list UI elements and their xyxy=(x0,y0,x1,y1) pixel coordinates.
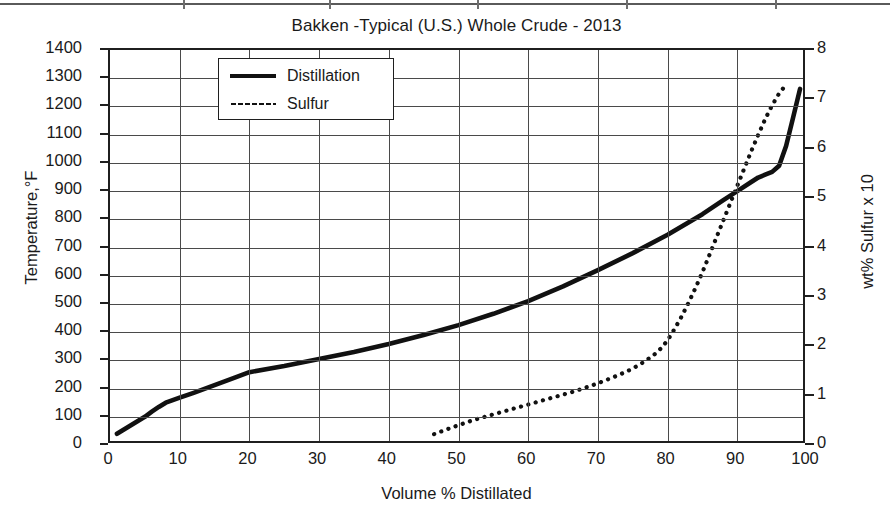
gridline-horizontal xyxy=(110,332,803,333)
legend-solid-line-icon xyxy=(227,74,279,78)
right-tick-mark xyxy=(805,147,814,149)
x-tick-label: 100 xyxy=(775,450,835,467)
right-tick-mark xyxy=(805,196,814,198)
gridline-horizontal xyxy=(110,78,803,79)
gridline-vertical xyxy=(668,50,669,441)
right-y-axis-label: wt% Sulfur x 10 xyxy=(858,107,877,357)
gridline-horizontal xyxy=(110,135,803,136)
left-tick-mark xyxy=(100,161,108,163)
right-tick-mark xyxy=(805,97,814,99)
x-tick-label: 10 xyxy=(148,450,208,467)
gridline-horizontal xyxy=(110,389,803,390)
left-tick-mark xyxy=(100,133,108,135)
left-tick-mark xyxy=(100,76,108,78)
gridline-horizontal xyxy=(110,248,803,249)
left-tick-mark xyxy=(100,104,108,106)
right-tick-mark xyxy=(805,246,814,248)
gridline-vertical xyxy=(180,50,181,441)
gridline-horizontal xyxy=(110,417,803,418)
left-tick-mark xyxy=(100,443,108,445)
scan-artifact-tick xyxy=(183,0,185,9)
x-tick-label: 70 xyxy=(566,450,626,467)
left-tick-label: 300 xyxy=(14,349,82,366)
x-tick-label: 60 xyxy=(496,450,556,467)
legend-label-distillation: Distillation xyxy=(287,67,360,85)
series-line-sulfur xyxy=(434,85,786,435)
x-tick-label: 30 xyxy=(287,450,347,467)
gridline-vertical xyxy=(459,50,460,441)
left-tick-mark xyxy=(100,217,108,219)
left-tick-label: 100 xyxy=(14,406,82,423)
chart-figure: Bakken -Typical (U.S.) Whole Crude - 201… xyxy=(0,0,890,524)
gridline-horizontal xyxy=(110,304,803,305)
x-tick-label: 90 xyxy=(705,450,765,467)
plot-area xyxy=(108,48,805,443)
left-tick-label: 1200 xyxy=(14,95,82,112)
chart-title: Bakken -Typical (U.S.) Whole Crude - 201… xyxy=(108,16,805,36)
x-tick-label: 40 xyxy=(357,450,417,467)
scan-artifact-tick xyxy=(477,0,479,9)
gridline-horizontal xyxy=(110,106,803,107)
scan-artifact-tick xyxy=(775,0,777,9)
legend-item-sulfur: Sulfur xyxy=(219,90,393,118)
legend-label-sulfur: Sulfur xyxy=(287,95,329,113)
left-tick-mark xyxy=(100,415,108,417)
right-tick-mark xyxy=(805,344,814,346)
right-tick-label: 5 xyxy=(817,187,847,204)
right-tick-mark xyxy=(805,394,814,396)
right-tick-label: 0 xyxy=(817,434,847,451)
legend-item-distillation: Distillation xyxy=(219,62,393,90)
chart-legend: Distillation Sulfur xyxy=(218,58,394,120)
left-tick-mark xyxy=(100,302,108,304)
right-tick-label: 2 xyxy=(817,335,847,352)
right-tick-label: 7 xyxy=(817,88,847,105)
right-tick-mark xyxy=(805,48,814,50)
left-y-axis-label: Temperature,°F xyxy=(22,113,41,343)
legend-dotted-line-icon xyxy=(227,102,279,106)
left-tick-mark xyxy=(100,358,108,360)
left-tick-label: 1400 xyxy=(14,39,82,56)
left-tick-mark xyxy=(100,189,108,191)
left-tick-label: 200 xyxy=(14,378,82,395)
x-axis-label: Volume % Distillated xyxy=(108,484,805,503)
left-tick-label: 0 xyxy=(14,434,82,451)
left-tick-label: 1300 xyxy=(14,67,82,84)
gridline-horizontal xyxy=(110,360,803,361)
left-tick-mark xyxy=(100,387,108,389)
gridline-horizontal xyxy=(110,191,803,192)
left-tick-mark xyxy=(100,330,108,332)
gridline-horizontal xyxy=(110,219,803,220)
scan-artifact-tick xyxy=(329,0,331,9)
right-tick-label: 3 xyxy=(817,286,847,303)
x-tick-label: 20 xyxy=(217,450,277,467)
right-tick-mark xyxy=(805,443,814,445)
left-tick-mark xyxy=(100,48,108,50)
x-tick-label: 50 xyxy=(427,450,487,467)
x-tick-label: 80 xyxy=(636,450,696,467)
right-tick-label: 6 xyxy=(817,138,847,155)
left-tick-mark xyxy=(100,274,108,276)
gridline-vertical xyxy=(528,50,529,441)
scan-artifact-rule xyxy=(0,3,890,5)
x-tick-label: 0 xyxy=(78,450,138,467)
gridline-vertical xyxy=(737,50,738,441)
gridline-vertical xyxy=(598,50,599,441)
left-tick-mark xyxy=(100,246,108,248)
gridline-horizontal xyxy=(110,276,803,277)
right-tick-label: 8 xyxy=(817,39,847,56)
scan-artifact-tick xyxy=(626,0,628,9)
right-tick-label: 1 xyxy=(817,385,847,402)
gridline-horizontal xyxy=(110,163,803,164)
right-tick-label: 4 xyxy=(817,237,847,254)
right-tick-mark xyxy=(805,295,814,297)
